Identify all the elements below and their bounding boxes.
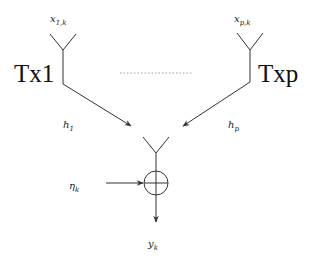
adder-icon: [144, 171, 168, 195]
txp-signal-label: xp,k: [234, 14, 251, 27]
output-label: yk: [148, 239, 158, 252]
tx1-label: Tx1: [14, 61, 54, 86]
txp-label: Txp: [258, 61, 298, 86]
channel-hp-arrow: [183, 82, 250, 126]
diagram-canvas: [0, 0, 313, 260]
tx1-signal-label: x1,k: [50, 14, 67, 27]
noise-label: ηk: [69, 181, 79, 194]
channel-hp-label: hp: [228, 120, 239, 133]
channel-h1-label: h1: [63, 120, 74, 133]
receiver-antenna-icon: [143, 137, 169, 171]
